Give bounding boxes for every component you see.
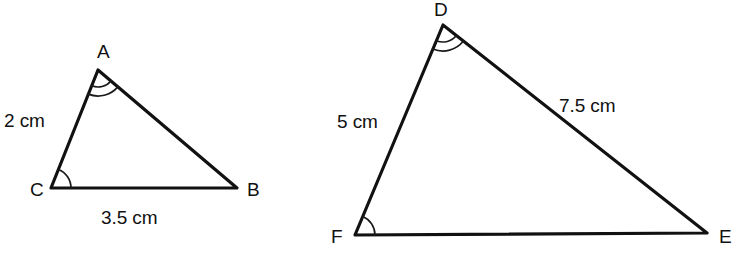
triangle-def-outline (355, 25, 707, 235)
triangle-abc-outline (51, 70, 237, 188)
side-label-fd: 5 cm (337, 111, 378, 132)
vertex-label-b: B (247, 179, 260, 200)
vertex-label-a: A (97, 41, 110, 62)
vertex-label-c: C (30, 179, 44, 200)
angle-arc-f-1 (363, 217, 375, 235)
angle-mark-c (58, 169, 71, 188)
triangle-def: DEF5 cm7.5 cm (331, 0, 732, 247)
angle-arc-a-2 (88, 87, 117, 96)
angle-arc-d-2 (433, 41, 463, 51)
figure-canvas: ABC2 cm3.5 cmDEF5 cm7.5 cm (0, 0, 747, 262)
side-label-cb: 3.5 cm (101, 207, 157, 228)
angle-arc-c-1 (58, 169, 71, 188)
triangle-abc: ABC2 cm3.5 cm (4, 41, 260, 228)
geometry-figure: ABC2 cm3.5 cmDEF5 cm7.5 cm (0, 0, 747, 262)
vertex-label-d: D (434, 0, 448, 20)
vertex-label-e: E (719, 226, 732, 247)
side-label-de: 7.5 cm (559, 95, 615, 116)
vertex-label-f: F (331, 226, 343, 247)
angle-mark-f (363, 217, 375, 235)
side-label-ca: 2 cm (4, 110, 45, 131)
